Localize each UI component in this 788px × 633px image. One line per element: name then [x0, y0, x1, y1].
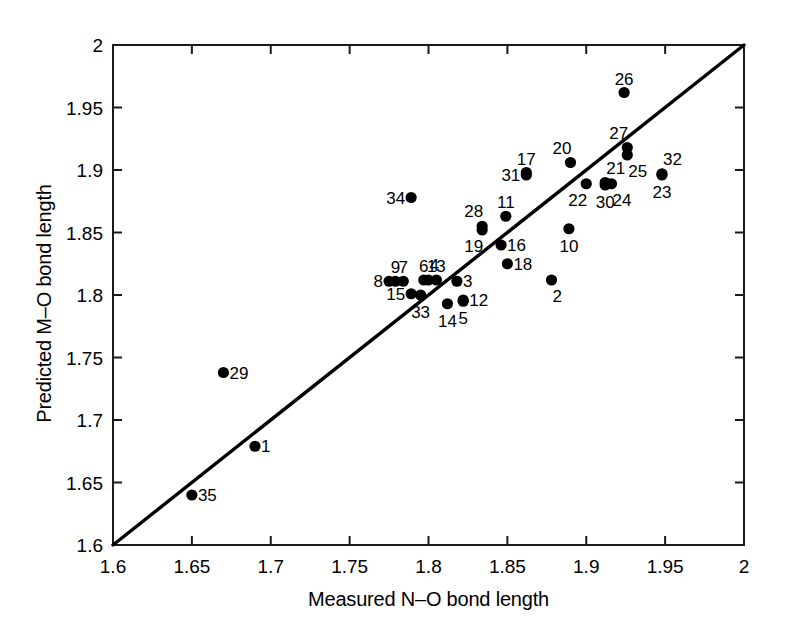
data-point-label-16: 16 [507, 237, 526, 254]
data-point-label-26: 26 [615, 71, 634, 88]
data-point-label-21: 21 [606, 160, 625, 177]
data-point-label-25: 25 [628, 163, 647, 180]
data-point-label-18: 18 [513, 256, 532, 273]
data-point-label-24: 24 [612, 192, 631, 209]
y-axis-title: Predicted M–O bond length [33, 74, 56, 534]
data-point-label-32: 32 [663, 151, 682, 168]
data-point-label-35: 35 [198, 487, 217, 504]
data-point-label-1: 1 [261, 438, 270, 455]
data-point-label-2: 2 [553, 288, 562, 305]
data-point-label-3: 3 [463, 273, 472, 290]
x-axis-title: Measured N–O bond length [113, 588, 744, 611]
data-point-label-29: 29 [229, 365, 248, 382]
scatter-plot-figure: 1.61.651.71.751.81.851.91.952 1.61.651.7… [0, 0, 788, 633]
data-point-label-27: 27 [609, 125, 628, 142]
data-point-label-22: 22 [568, 192, 587, 209]
data-point-label-14: 14 [438, 313, 457, 330]
data-point-labels: 1234567891011121314151617181920212223242… [0, 0, 788, 633]
data-point-label-15: 15 [386, 286, 405, 303]
data-point-label-10: 10 [559, 238, 578, 255]
data-point-label-13: 13 [427, 258, 446, 275]
data-point-label-19: 19 [464, 238, 483, 255]
data-point-label-33: 33 [411, 304, 430, 321]
data-point-label-28: 28 [464, 203, 483, 220]
data-point-label-5: 5 [458, 310, 467, 327]
data-point-label-31: 31 [501, 167, 520, 184]
data-point-label-9: 9 [391, 259, 400, 276]
data-point-label-17: 17 [517, 151, 536, 168]
data-point-label-34: 34 [386, 190, 405, 207]
data-point-label-11: 11 [497, 194, 515, 211]
data-point-label-30: 30 [596, 194, 615, 211]
data-point-label-8: 8 [374, 273, 383, 290]
data-point-label-23: 23 [653, 184, 672, 201]
data-point-label-12: 12 [469, 292, 488, 309]
data-point-label-20: 20 [553, 140, 572, 157]
